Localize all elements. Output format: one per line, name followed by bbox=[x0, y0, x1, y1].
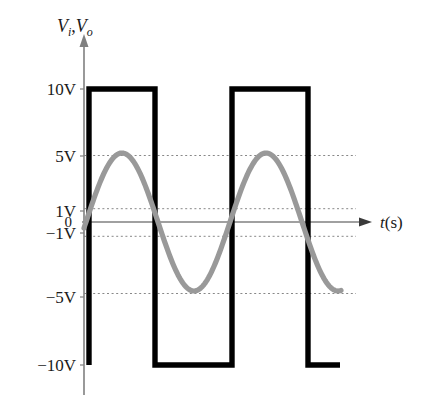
y-tick-label-neg10: −10V bbox=[37, 356, 77, 375]
y-tick-label-neg1: −1V bbox=[46, 224, 77, 243]
y-tick-label-10: 10V bbox=[47, 80, 77, 99]
y-axis-title: Vi,Vo bbox=[57, 16, 93, 39]
x-axis-title-unit: (s) bbox=[385, 213, 403, 232]
y-tick-label-5: 5V bbox=[55, 147, 77, 166]
waveform-svg: 10V5V1V0−1V−5V−10VVi,Vot(s) bbox=[0, 0, 426, 408]
x-axis-title: t(s) bbox=[380, 213, 403, 232]
y-axis-title-sub-o: o bbox=[87, 25, 93, 39]
waveform-figure: 10V5V1V0−1V−5V−10VVi,Vot(s) bbox=[0, 0, 426, 408]
y-tick-label-neg5: −5V bbox=[46, 288, 77, 307]
x-axis-arrowhead bbox=[359, 217, 372, 226]
